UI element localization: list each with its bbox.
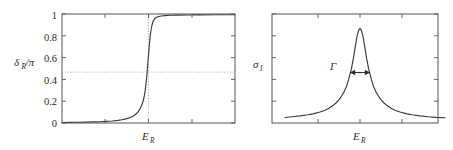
ytick-label-0-8: 0.8 <box>44 32 57 43</box>
y-axis-label-group-right: σ I <box>253 58 263 73</box>
ytick-label-0-4: 0.4 <box>44 75 58 86</box>
x-axis-label-group-right: E R <box>352 130 366 145</box>
y-axis-label-delta: δ <box>14 56 20 68</box>
ytick-label-0-6: 0.6 <box>44 53 57 64</box>
cross-section-plot: σ I Γ <box>240 0 453 150</box>
y-axis-label-subscript-I: I <box>259 64 263 73</box>
phase-shift-plot: 1 0.8 0.6 0.4 0.2 0 δ R /π <box>0 0 240 150</box>
y-axis-label-over-pi: /π <box>25 56 35 68</box>
gamma-label: Γ <box>329 60 337 72</box>
x-axis-label-E: E <box>141 130 149 142</box>
ytick-label-1: 1 <box>52 10 57 21</box>
panel-phase-shift: 1 0.8 0.6 0.4 0.2 0 δ R /π <box>0 0 240 150</box>
figure-container: 1 0.8 0.6 0.4 0.2 0 δ R /π <box>0 0 453 150</box>
x-axis-label-subscript-R-right: R <box>360 136 366 145</box>
width-marker-gamma: Γ <box>329 60 370 75</box>
x-axis-label-subscript-R: R <box>149 136 155 145</box>
plot-frame-right <box>272 14 438 123</box>
x-axis-label-group-left: E R <box>141 130 155 145</box>
ytick-label-0-2: 0.2 <box>44 96 57 107</box>
x-axis-label-E-right: E <box>352 130 360 142</box>
panel-cross-section: σ I Γ <box>240 0 453 150</box>
ytick-label-0: 0 <box>52 118 57 129</box>
y-axis-label-sigma: σ <box>253 58 259 70</box>
y-axis-label-group: δ R /π <box>14 56 35 71</box>
